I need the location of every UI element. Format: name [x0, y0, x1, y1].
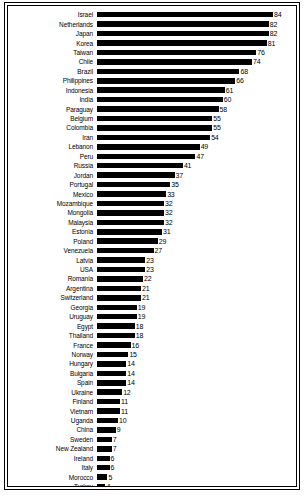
bar [97, 69, 239, 75]
bar-row: Thailand18 [11, 331, 293, 340]
bar [97, 201, 164, 207]
bar [97, 427, 116, 433]
bar-track: 33 [97, 189, 293, 198]
bar-value-label: 33 [166, 191, 174, 198]
bar-row: Venezuela27 [11, 246, 293, 255]
bar-track: 16 [97, 340, 293, 349]
bar-row: Romania22 [11, 274, 293, 283]
category-label: China [11, 426, 97, 433]
category-label: Georgia [11, 304, 97, 311]
bar-row: China9 [11, 425, 293, 434]
bar-track: 54 [97, 133, 293, 142]
bar-track: 66 [97, 76, 293, 85]
bar-value-label: 4 [105, 483, 110, 487]
bar-value-label: 55 [212, 124, 220, 131]
bar-row: Belgium55 [11, 114, 293, 123]
bar-row: New Zealand7 [11, 444, 293, 453]
bar [97, 408, 120, 414]
bar-value-label: 32 [164, 200, 172, 207]
bar [97, 87, 225, 93]
category-label: Philippines [11, 77, 97, 84]
bar-row: Colombia55 [11, 123, 293, 132]
bar-value-label: 27 [154, 247, 162, 254]
bar-row: Korea81 [11, 38, 293, 47]
bar-value-label: 23 [145, 257, 153, 264]
bar-value-label: 7 [112, 445, 117, 452]
category-label: Mexico [11, 191, 97, 198]
bar-track: 61 [97, 86, 293, 95]
bar-row: Paraguay58 [11, 104, 293, 113]
bar-row: Chile74 [11, 57, 293, 66]
category-label: Netherlands [11, 21, 97, 28]
bar [97, 40, 267, 46]
bar-value-label: 74 [252, 58, 260, 65]
bar-row: Morocco5 [11, 472, 293, 481]
bar-row: Egypt18 [11, 321, 293, 330]
bar-track: 31 [97, 227, 293, 236]
category-label: Vietnam [11, 408, 97, 415]
bar [97, 465, 110, 471]
bar-row: Italy6 [11, 463, 293, 472]
bar [97, 238, 158, 244]
bar-row: Latvia23 [11, 255, 293, 264]
bar [97, 267, 145, 273]
bar-track: 4 [97, 482, 293, 487]
bar-value-label: 82 [269, 30, 277, 37]
category-label: Malaysia [11, 219, 97, 226]
bar-row: Finland11 [11, 397, 293, 406]
category-label: Ukraine [11, 389, 97, 396]
bar-row: Spain14 [11, 378, 293, 387]
bar-track: 22 [97, 274, 293, 283]
bar-row: Mexico33 [11, 189, 293, 198]
bar [97, 323, 135, 329]
category-label: Sweden [11, 436, 97, 443]
bar-row: Malaysia32 [11, 218, 293, 227]
category-label: Belgium [11, 115, 97, 122]
bar [97, 97, 223, 103]
category-label: Taiwan [11, 49, 97, 56]
bar [97, 248, 154, 254]
bar-value-label: 61 [225, 87, 233, 94]
category-label: Paraguay [11, 106, 97, 113]
bar-track: 23 [97, 255, 293, 264]
bar-row: Georgia19 [11, 303, 293, 312]
bar-value-label: 23 [145, 266, 153, 273]
bar [97, 31, 269, 37]
category-label: Mozambique [11, 200, 97, 207]
bar [97, 286, 141, 292]
plot-area: Israel84Netherlands82Japan82Korea81Taiwa… [8, 6, 296, 486]
bar [97, 456, 110, 462]
bar-row: Uganda10 [11, 416, 293, 425]
bar-track: 37 [97, 170, 293, 179]
bar-track: 18 [97, 321, 293, 330]
bar-row: Brazil68 [11, 67, 293, 76]
bar-value-label: 47 [195, 153, 203, 160]
bar [97, 361, 126, 367]
category-label: Brazil [11, 68, 97, 75]
category-label: Romania [11, 275, 97, 282]
bar-track: 14 [97, 359, 293, 368]
bar [97, 125, 212, 131]
bar-value-label: 10 [118, 417, 126, 424]
bar [97, 305, 137, 311]
bar-row: Lebanon49 [11, 142, 293, 151]
category-label: Portugal [11, 181, 97, 188]
bar [97, 371, 126, 377]
category-label: Hungary [11, 360, 97, 367]
category-label: Morocco [11, 474, 97, 481]
bar-row: Argentina21 [11, 284, 293, 293]
bar-value-label: 15 [128, 351, 136, 358]
category-label: Japan [11, 30, 97, 37]
bar-value-label: 41 [183, 162, 191, 169]
bar-track: 9 [97, 425, 293, 434]
bar-row: Ireland6 [11, 454, 293, 463]
bar-value-label: 18 [135, 323, 143, 330]
bar-track: 15 [97, 350, 293, 359]
category-label: France [11, 342, 97, 349]
category-label: Colombia [11, 124, 97, 131]
category-label: Indonesia [11, 87, 97, 94]
bar-row: Turkey4 [11, 482, 293, 487]
bar-value-label: 19 [137, 313, 145, 320]
bar [97, 446, 112, 452]
bar-value-label: 12 [122, 389, 130, 396]
